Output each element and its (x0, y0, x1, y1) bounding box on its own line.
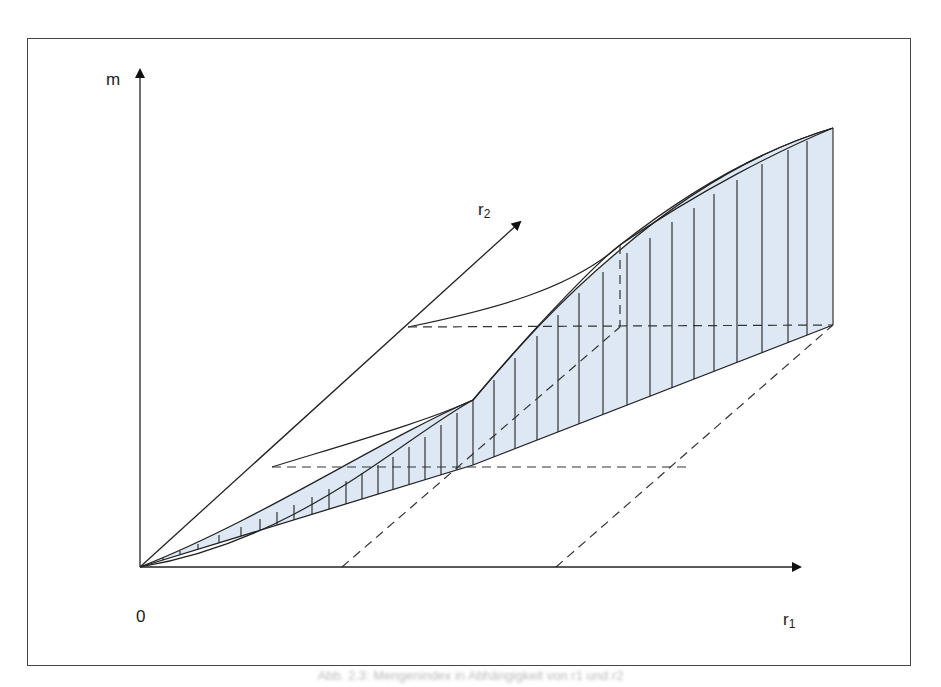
origin-label: 0 (136, 607, 145, 627)
r1-label-text: r (783, 610, 789, 629)
figure-caption: Abb. 2.3: Mengenindex in Abhängigkeit vo… (0, 668, 941, 683)
r2-axis-label: r2 (478, 200, 490, 220)
r2-label-text: r (478, 200, 484, 219)
r1-subscript: 1 (789, 617, 796, 631)
r2-subscript: 2 (484, 207, 491, 221)
m-axis-label: m (106, 70, 120, 90)
diagram-canvas (0, 0, 941, 687)
r2-axis (140, 222, 520, 567)
shaded-surface (140, 128, 833, 567)
r1-axis-label: r1 (783, 610, 795, 630)
